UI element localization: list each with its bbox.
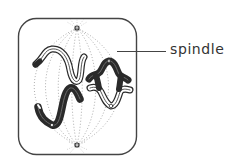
meiosis-cell-diagram: spindle — [0, 0, 232, 158]
diagram-canvas — [0, 0, 232, 158]
spindle-fibres — [34, 28, 120, 145]
right-bivalent — [89, 60, 130, 108]
bottom-spindle-pole — [66, 142, 88, 153]
spindle-label: spindle — [170, 42, 225, 56]
left-bivalent — [35, 49, 84, 127]
